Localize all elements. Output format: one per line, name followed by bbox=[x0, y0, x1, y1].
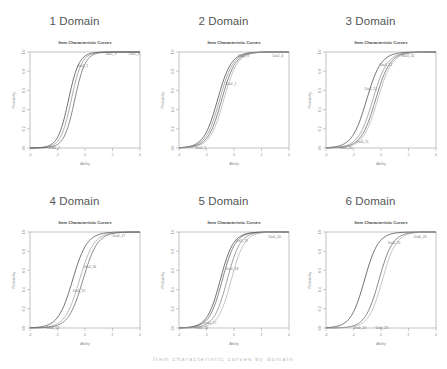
curve-label: Dia1_4 bbox=[129, 52, 140, 56]
curve-label: Dia4_17 bbox=[113, 234, 126, 238]
x-tick-label: -4 bbox=[324, 153, 327, 157]
y-tick-label: 0.4 bbox=[22, 107, 26, 112]
x-tick-label: 2 bbox=[408, 153, 410, 157]
curve-label: Dia6_24 bbox=[354, 326, 367, 330]
y-tick-label: 0.8 bbox=[318, 249, 322, 254]
curve-label: Dia1_1 bbox=[49, 146, 60, 150]
x-tick-label: 4 bbox=[288, 153, 290, 157]
y-tick-label: 0.8 bbox=[171, 249, 175, 254]
x-tick-label: -4 bbox=[28, 333, 31, 337]
x-axis-label: Ability bbox=[376, 162, 386, 166]
y-tick-label: 0.6 bbox=[171, 88, 175, 93]
x-tick-label: -2 bbox=[56, 153, 59, 157]
chart-panel-2: 2 Domain Item Characteristic Curves0.00.… bbox=[149, 0, 298, 180]
icc-curve bbox=[179, 52, 289, 148]
y-tick-label: 0.6 bbox=[22, 88, 26, 93]
chart-panel-4: 4 Domain Item Characteristic Curves0.00.… bbox=[0, 180, 149, 360]
y-tick-label: 0.2 bbox=[318, 126, 322, 131]
curve-label: Dia4_16 bbox=[84, 265, 97, 269]
x-tick-label: 4 bbox=[435, 153, 437, 157]
y-tick-label: 0.8 bbox=[22, 69, 26, 74]
chart-panel-5: 5 Domain Item Characteristic Curves0.00.… bbox=[149, 180, 298, 360]
x-tick-label: 2 bbox=[261, 333, 263, 337]
x-tick-label: 0 bbox=[233, 333, 235, 337]
y-tick-label: 0.0 bbox=[318, 146, 322, 151]
chart-panel-6: 6 Domain Item Characteristic Curves0.00.… bbox=[296, 180, 445, 360]
icc-curve bbox=[179, 52, 289, 148]
icc-plot: Item Characteristic Curves0.00.20.40.60.… bbox=[0, 180, 149, 360]
x-tick-label: 2 bbox=[408, 333, 410, 337]
curve-label: Dia1_2 bbox=[77, 64, 88, 68]
curve-label: Dia1_3 bbox=[106, 52, 117, 56]
icc-plot: Item Characteristic Curves0.00.20.40.60.… bbox=[149, 0, 298, 180]
y-tick-label: 0.2 bbox=[22, 306, 26, 311]
y-tick-label: 0.8 bbox=[171, 69, 175, 74]
y-axis-label: Probability bbox=[12, 271, 16, 288]
y-axis-label: Probability bbox=[12, 91, 16, 108]
curve-label: Dia3_11 bbox=[356, 140, 368, 144]
curve-label: Dia3_14 bbox=[402, 54, 415, 58]
icc-plot: Item Characteristic Curves0.00.20.40.60.… bbox=[149, 180, 298, 360]
curve-label: Dia3_12 bbox=[365, 87, 378, 91]
y-axis-label: Probability bbox=[308, 91, 312, 108]
curve-label: Dia6_26 bbox=[414, 235, 427, 239]
curve-label: Dia4_14 bbox=[47, 326, 60, 330]
figure-caption: Item characteristic curves by domain bbox=[0, 356, 447, 362]
x-tick-label: 2 bbox=[112, 153, 114, 157]
curve-label: Dia6_23 bbox=[376, 326, 389, 330]
y-tick-label: 0.4 bbox=[171, 287, 175, 292]
x-tick-label: 4 bbox=[139, 153, 141, 157]
plot-title: Item Characteristic Curves bbox=[354, 40, 408, 45]
x-tick-label: 0 bbox=[84, 153, 86, 157]
icc-curve bbox=[179, 232, 289, 328]
curve-label: Dia5_17 bbox=[204, 321, 217, 325]
y-tick-label: 0.8 bbox=[22, 249, 26, 254]
x-axis-label: Ability bbox=[376, 342, 386, 346]
x-tick-label: 4 bbox=[288, 333, 290, 337]
y-tick-label: 0.2 bbox=[318, 306, 322, 311]
x-tick-label: -2 bbox=[56, 333, 59, 337]
y-tick-label: 0.0 bbox=[318, 326, 322, 331]
y-tick-label: 0.0 bbox=[171, 326, 175, 331]
curve-label: Dia4_15 bbox=[73, 289, 86, 293]
curve-label: Dia5_16 bbox=[196, 326, 209, 330]
x-tick-label: -2 bbox=[205, 333, 208, 337]
x-axis-label: Ability bbox=[80, 342, 90, 346]
plot-title: Item Characteristic Curves bbox=[354, 220, 408, 225]
y-axis-label: Probability bbox=[161, 271, 165, 288]
icc-curve bbox=[30, 232, 140, 328]
x-tick-label: -4 bbox=[177, 333, 180, 337]
curve-label: Dia2_2 bbox=[226, 82, 237, 86]
x-tick-label: -2 bbox=[352, 333, 355, 337]
y-tick-label: 0.6 bbox=[171, 268, 175, 273]
plot-title: Item Characteristic Curves bbox=[207, 220, 261, 225]
icc-curve bbox=[326, 232, 436, 328]
y-tick-label: 1.0 bbox=[171, 50, 175, 55]
x-tick-label: 0 bbox=[233, 153, 235, 157]
icc-curve bbox=[179, 52, 289, 148]
curve-label: Dia2_4 bbox=[273, 54, 284, 58]
y-tick-label: 0.0 bbox=[22, 326, 26, 331]
x-tick-label: 2 bbox=[112, 333, 114, 337]
y-tick-label: 0.4 bbox=[171, 107, 175, 112]
x-axis-label: Ability bbox=[80, 162, 90, 166]
y-tick-label: 0.2 bbox=[22, 126, 26, 131]
curve-label: Dia6_25 bbox=[388, 241, 401, 245]
curve-label: Dia2_3 bbox=[238, 54, 249, 58]
icc-curve bbox=[326, 232, 436, 328]
x-tick-label: 0 bbox=[380, 153, 382, 157]
x-tick-label: 2 bbox=[261, 153, 263, 157]
plot-title: Item Characteristic Curves bbox=[58, 40, 112, 45]
y-tick-label: 0.2 bbox=[171, 126, 175, 131]
y-tick-label: 0.0 bbox=[22, 146, 26, 151]
x-tick-label: 4 bbox=[139, 333, 141, 337]
x-tick-label: 0 bbox=[380, 333, 382, 337]
y-axis-label: Probability bbox=[308, 271, 312, 288]
y-tick-label: 0.8 bbox=[318, 69, 322, 74]
icc-plot: Item Characteristic Curves0.00.20.40.60.… bbox=[296, 180, 445, 360]
x-tick-label: -2 bbox=[352, 153, 355, 157]
x-axis-label: Ability bbox=[229, 162, 239, 166]
y-tick-label: 0.2 bbox=[171, 306, 175, 311]
x-axis-label: Ability bbox=[229, 342, 239, 346]
icc-plot: Item Characteristic Curves0.00.20.40.60.… bbox=[0, 0, 149, 180]
